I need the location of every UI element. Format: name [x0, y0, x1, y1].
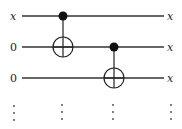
- output-label-1: x: [167, 10, 174, 23]
- cnot-gate-1: [53, 12, 73, 58]
- ellipsis-col-1: [13, 105, 15, 121]
- ellipsis-col-2: [61, 104, 63, 120]
- ellipsis-col-3: [112, 104, 114, 120]
- input-label-1: x: [10, 10, 17, 23]
- ellipsis-col-4: [170, 104, 172, 120]
- input-label-2: 0: [10, 41, 17, 54]
- quantum-circuit: x 0 0 x x x: [0, 0, 182, 129]
- control-dot-icon: [110, 43, 119, 52]
- output-label-2: x: [167, 41, 174, 54]
- control-dot-icon: [59, 12, 68, 21]
- cnot-gate-2: [104, 43, 124, 89]
- output-label-3: x: [167, 72, 174, 85]
- input-label-3: 0: [10, 72, 17, 85]
